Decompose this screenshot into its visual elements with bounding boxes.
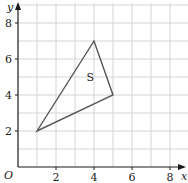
y-tick-label: 2 xyxy=(5,125,12,138)
x-tick-label: 6 xyxy=(129,171,136,183)
coordinate-diagram: 24682468 O x y S xyxy=(0,0,188,183)
shape-label: S xyxy=(86,71,94,84)
y-tick-label: 4 xyxy=(5,89,12,102)
y-tick-label: 8 xyxy=(5,17,12,30)
y-axis-arrow-icon xyxy=(15,2,21,10)
grid-lines xyxy=(18,3,188,167)
y-tick-label: 6 xyxy=(5,53,12,66)
x-axis-label: x xyxy=(181,170,188,183)
x-tick-label: 8 xyxy=(167,171,174,183)
axis-ticks: 24682468 xyxy=(5,17,174,183)
y-axis-label: y xyxy=(6,1,14,14)
x-tick-label: 2 xyxy=(53,171,60,183)
x-tick-label: 4 xyxy=(91,171,98,183)
origin-label: O xyxy=(4,169,13,182)
